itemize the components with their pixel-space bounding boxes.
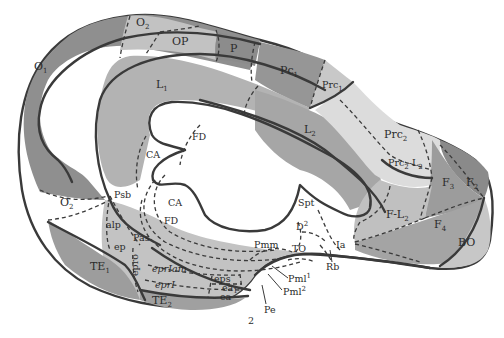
label-Pml2: Pml2 bbox=[283, 285, 306, 297]
leader-Pml2 bbox=[268, 274, 282, 290]
label-TO: TO bbox=[292, 243, 306, 254]
page-mark: 2 bbox=[248, 315, 254, 326]
label-CA-inner: CA bbox=[168, 197, 182, 208]
label-eprI: eprI bbox=[155, 279, 175, 290]
label-FD-top: FD bbox=[192, 131, 207, 142]
label-O2-bottom: O2 bbox=[60, 196, 74, 211]
label-D2: D2 bbox=[296, 220, 308, 232]
label-Rb: Rb bbox=[326, 261, 339, 272]
label-Spt: Spt bbox=[298, 197, 315, 208]
label-Psb: Psb bbox=[114, 189, 131, 200]
label-CA-top: CA bbox=[146, 149, 160, 160]
label-P: P bbox=[230, 42, 238, 55]
label-Ia: Ia bbox=[336, 239, 346, 250]
label-alp: alp bbox=[106, 219, 121, 230]
label-ea: ea bbox=[220, 291, 232, 302]
label-BO: BO bbox=[458, 236, 475, 249]
label-Pml1: Pml1 bbox=[288, 272, 311, 284]
label-ep: ep bbox=[114, 241, 126, 252]
label-Pmm: Pmm bbox=[254, 239, 278, 250]
label-eprIam: eprIam bbox=[152, 263, 187, 274]
cortex-map-diagram: O1 O2 OP P Pc1 Prc1 L1 L2 Prc2 Prc2-L2 F… bbox=[0, 0, 504, 338]
label-Pas: Pas bbox=[133, 232, 150, 243]
leader-Pml1 bbox=[272, 266, 288, 278]
label-FD-inner: FD bbox=[164, 215, 179, 226]
label-epro: epro bbox=[129, 254, 140, 276]
dash-O2-lower bbox=[48, 200, 110, 220]
label-OP: OP bbox=[172, 35, 189, 48]
label-Pe: Pe bbox=[264, 304, 276, 315]
leader-Pe bbox=[262, 285, 266, 304]
